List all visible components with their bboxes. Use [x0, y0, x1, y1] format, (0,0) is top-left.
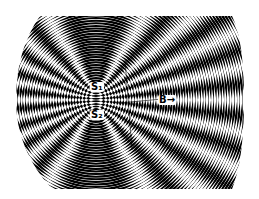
point-b-text: B [159, 94, 167, 105]
source-label-s1: S₁ [90, 82, 104, 92]
source-label-s2: S₂ [90, 110, 104, 120]
arrow-right-icon: → [167, 94, 175, 105]
interference-figure: S₁ S₂ B→ [0, 0, 259, 199]
point-label-b: B→ [158, 95, 176, 105]
interference-pattern [0, 0, 259, 199]
